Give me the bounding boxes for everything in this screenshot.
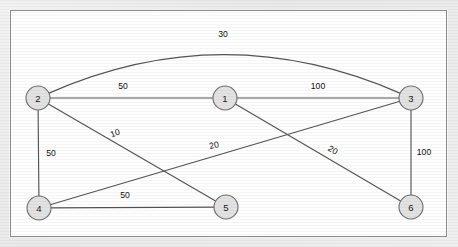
graph-node-6: 6 [399,195,423,219]
node-label-2: 2 [35,93,40,104]
edges-layer [38,55,411,208]
node-label-4: 4 [36,203,41,214]
figure-root: 123456 30501005010202010050 [0,0,458,247]
graph-node-3: 3 [399,86,423,110]
edge-weight-label-4-3: 20 [208,139,220,151]
graph-edge-1-6 [235,104,401,201]
edge-weight-label-2-4: 50 [46,148,56,158]
node-label-6: 6 [408,202,413,213]
graph-edge-4-3 [50,101,400,204]
edge-weight-label-2-3: 30 [218,29,228,39]
graph-edge-2-5 [48,104,216,201]
edge-weight-label-2-5: 10 [109,127,122,140]
graph-node-1: 1 [213,86,237,110]
graph-canvas: 123456 30501005010202010050 [0,0,458,247]
node-label-5: 5 [223,202,228,213]
edge-weight-label-1-3: 100 [311,81,326,91]
node-label-1: 1 [222,93,227,104]
graph-edge-4-5 [50,207,214,208]
graph-node-2: 2 [26,86,50,110]
edge-weight-label-3-6: 100 [417,147,432,157]
node-label-3: 3 [408,93,413,104]
graph-edge-2-4 [38,109,39,196]
edge-weight-label-1-6: 20 [326,143,340,157]
graph-node-4: 4 [27,196,51,220]
edge-weight-label-2-1: 50 [118,81,128,91]
edge-weight-label-4-5: 50 [120,190,130,200]
graph-node-5: 5 [214,195,238,219]
